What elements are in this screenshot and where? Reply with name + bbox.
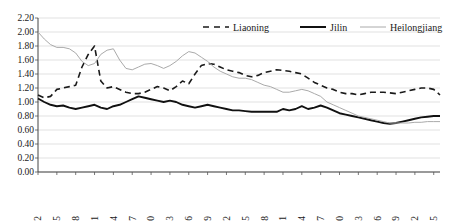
y-axis-tick-label: 1.00 xyxy=(17,97,34,107)
y-axis-tick-label: 2.20 xyxy=(17,13,34,23)
x-axis-tick-label: 1973 xyxy=(165,216,175,221)
x-axis-tick-label: 2000 xyxy=(335,216,345,221)
x-axis-tick-label: 1991 xyxy=(278,216,288,221)
line-chart: 0.000.200.400.600.801.001.201.401.601.80… xyxy=(0,0,452,221)
x-axis-tick-label: 2006 xyxy=(373,216,383,221)
y-axis-tick-label: 2.00 xyxy=(17,27,34,37)
x-axis-tick-label: 1967 xyxy=(128,216,138,221)
y-axis-tick-label: 1.60 xyxy=(17,55,34,65)
x-axis-tick-label: 1964 xyxy=(109,216,119,221)
x-axis-tick-label: 1988 xyxy=(260,216,270,221)
y-axis-tick-label: 0.00 xyxy=(17,167,34,177)
x-axis-tick-label: 1976 xyxy=(184,216,194,221)
x-axis-tick-label: 1961 xyxy=(90,216,100,221)
x-axis-tick-label: 1994 xyxy=(297,216,307,221)
x-axis-tick-label: 2003 xyxy=(354,216,364,221)
legend-label-liaoning: Liaoning xyxy=(233,22,269,33)
y-axis-tick-label: 1.20 xyxy=(17,83,34,93)
x-axis-tick-label: 1985 xyxy=(241,216,251,221)
x-axis-tick-label: 2015 xyxy=(429,216,439,221)
legend-label-jilin: Jilin xyxy=(330,22,347,33)
y-axis-tick-label: 1.40 xyxy=(17,69,34,79)
x-axis-tick-label: 1979 xyxy=(203,216,213,221)
y-axis-tick-label: 1.80 xyxy=(17,41,34,51)
chart-canvas: 0.000.200.400.600.801.001.201.401.601.80… xyxy=(0,0,452,221)
x-axis-tick-label: 1970 xyxy=(146,216,156,221)
x-axis-tick-label: 1982 xyxy=(222,216,232,221)
plot-area-background xyxy=(38,18,440,172)
x-axis-tick-label: 2009 xyxy=(391,216,401,221)
legend-label-heilongjiang: Heilongjiang xyxy=(390,22,442,33)
x-axis-tick-label: 1958 xyxy=(71,216,81,221)
x-axis-tick-label: 2012 xyxy=(410,216,420,221)
y-axis-tick-label: 0.40 xyxy=(17,139,34,149)
y-axis-tick-label: 0.80 xyxy=(17,111,34,121)
y-axis-tick-label: 0.20 xyxy=(17,153,34,163)
x-axis-tick-label: 1955 xyxy=(52,216,62,221)
y-axis-tick-label: 0.60 xyxy=(17,125,34,135)
x-axis-tick-label: 1997 xyxy=(316,216,326,221)
x-axis-tick-label: 1952 xyxy=(33,216,43,221)
